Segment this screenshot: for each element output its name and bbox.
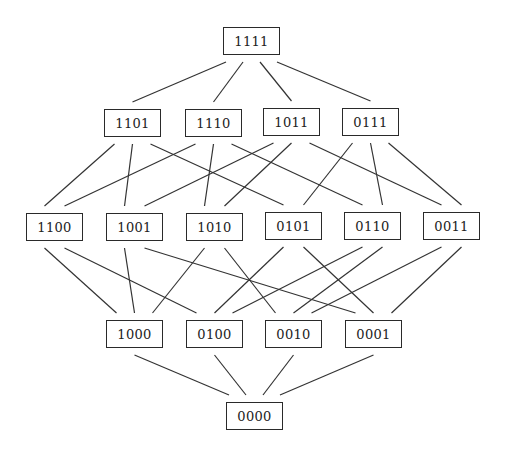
- edge-0001-0000: [280, 355, 374, 395]
- node-0011: 0011: [423, 212, 480, 240]
- edge-1110-1100: [65, 144, 196, 206]
- edge-0111-0110: [371, 143, 383, 205]
- node-1110: 1110: [185, 109, 242, 137]
- edge-0111-0011: [389, 143, 462, 205]
- edge-1010-1000: [153, 248, 205, 313]
- node-0101: 0101: [265, 212, 322, 240]
- node-1000: 1000: [106, 320, 163, 348]
- edge-1011-1001: [145, 143, 274, 206]
- edge-1101-1100: [45, 144, 115, 206]
- node-1101: 1101: [104, 109, 161, 137]
- edge-1000-0000: [135, 355, 230, 395]
- edge-0110-0010: [294, 247, 383, 313]
- node-1100: 1100: [26, 213, 83, 241]
- edge-1111-1110: [214, 62, 244, 102]
- edge-0101-0100: [215, 247, 284, 313]
- edge-0100-0000: [215, 355, 247, 395]
- edge-1011-1010: [225, 143, 292, 206]
- node-0010: 0010: [265, 320, 322, 348]
- node-0111: 0111: [342, 108, 399, 136]
- edge-1011-0011: [310, 143, 442, 205]
- node-0000: 0000: [226, 402, 283, 430]
- edge-1001-1000: [125, 248, 135, 313]
- node-1011: 1011: [263, 108, 320, 136]
- edge-0011-0001: [392, 247, 462, 313]
- node-0001: 0001: [345, 320, 402, 348]
- edge-1010-0010: [225, 248, 276, 313]
- edge-1101-0101: [151, 144, 284, 205]
- edge-1111-1011: [260, 62, 292, 101]
- edge-1111-1101: [133, 62, 227, 102]
- node-0100: 0100: [186, 320, 243, 348]
- node-1111: 1111: [223, 27, 280, 55]
- edge-1111-0111: [277, 62, 371, 101]
- edge-1100-1000: [45, 248, 117, 313]
- hasse-diagram: 1111110111101011011111001001101001010110…: [0, 0, 509, 455]
- edge-1110-0110: [232, 144, 363, 205]
- edge-0010-0000: [263, 355, 294, 395]
- edge-0011-0010: [312, 247, 442, 313]
- node-1010: 1010: [186, 213, 243, 241]
- node-0110: 0110: [344, 212, 401, 240]
- edge-0110-0100: [233, 247, 363, 313]
- node-1001: 1001: [106, 213, 163, 241]
